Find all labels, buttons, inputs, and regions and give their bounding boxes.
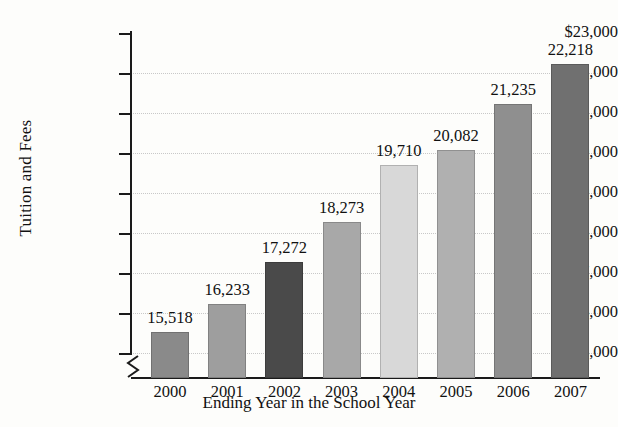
x-tick-label: 2007 bbox=[535, 382, 605, 402]
bar-value-label: 17,272 bbox=[239, 238, 329, 258]
bar bbox=[551, 64, 589, 378]
bar bbox=[323, 222, 361, 378]
y-tick-mark bbox=[119, 33, 131, 35]
y-tick-mark bbox=[119, 153, 131, 155]
y-tick-mark bbox=[119, 233, 131, 235]
bar bbox=[494, 104, 532, 378]
bar bbox=[151, 332, 189, 378]
y-tick-mark bbox=[119, 113, 131, 115]
y-axis-title: Tuition and Fees bbox=[16, 68, 36, 288]
y-tick-mark bbox=[119, 353, 131, 355]
y-tick-label: $23,000 bbox=[508, 22, 618, 42]
bar-value-label: 16,233 bbox=[182, 280, 272, 300]
bar-value-label: 22,218 bbox=[525, 40, 615, 60]
bar bbox=[437, 150, 475, 378]
bar-value-label: 15,518 bbox=[125, 308, 215, 328]
bar-chart-figure: Tuition and Fees Ending Year in the Scho… bbox=[0, 0, 618, 427]
y-tick-mark bbox=[119, 273, 131, 275]
bar-value-label: 20,082 bbox=[411, 126, 501, 146]
bar bbox=[380, 165, 418, 378]
bar bbox=[265, 262, 303, 378]
bar-value-label: 21,235 bbox=[468, 80, 558, 100]
bar bbox=[208, 304, 246, 378]
axis-break-icon bbox=[122, 354, 144, 380]
y-tick-mark bbox=[119, 193, 131, 195]
bar-value-label: 18,273 bbox=[297, 198, 387, 218]
y-tick-mark bbox=[119, 73, 131, 75]
